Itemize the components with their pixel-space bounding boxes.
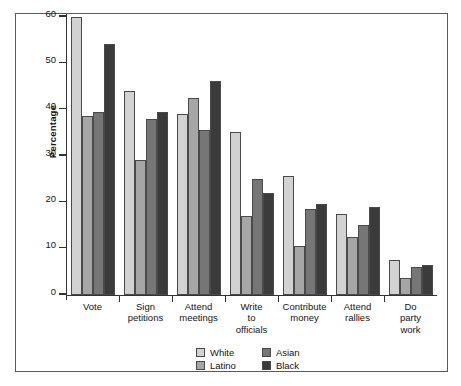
- legend-label: Latino: [210, 360, 236, 371]
- x-axis-category-label: Vote: [83, 301, 102, 313]
- bar-group-bars: [66, 17, 119, 295]
- y-tick: 0: [59, 293, 66, 294]
- y-axis-title: Percentage: [47, 72, 58, 192]
- y-tick-label: 10: [45, 239, 56, 250]
- bar: [177, 114, 188, 295]
- bar: [188, 98, 199, 295]
- y-tick-label: 0: [51, 286, 56, 297]
- bar: [336, 214, 347, 295]
- bar: [347, 237, 358, 295]
- x-axis-category-label: Attend meetings: [179, 301, 218, 324]
- bar: [400, 278, 411, 294]
- bar: [252, 179, 263, 295]
- y-tick-label: 50: [45, 54, 56, 65]
- bar-group: Contribute money: [278, 17, 331, 295]
- bar-group-bars: [172, 17, 225, 295]
- x-tick: [225, 296, 226, 302]
- bar: [369, 207, 380, 295]
- bar: [411, 267, 422, 295]
- legend-swatch-icon: [196, 348, 205, 357]
- bar: [93, 112, 104, 295]
- bar: [358, 225, 369, 295]
- bar: [210, 81, 221, 294]
- chart-legend: WhiteAsianLatinoBlack: [196, 346, 300, 371]
- y-tick-label: 20: [45, 193, 56, 204]
- y-tick-label: 60: [45, 8, 56, 19]
- bar: [263, 193, 274, 295]
- bar-chart-figure: Percentage 0102030405060 VoteSign petiti…: [0, 0, 461, 386]
- legend-item: White: [196, 347, 236, 358]
- legend-swatch-icon: [196, 361, 205, 370]
- y-tick: 50: [59, 62, 66, 63]
- x-axis-category-label: Write to officials: [236, 301, 268, 336]
- x-tick: [384, 296, 385, 302]
- x-tick: [331, 296, 332, 302]
- y-tick-label: 40: [45, 100, 56, 111]
- bar-group-bars: [384, 17, 437, 295]
- bar-group-bars: [119, 17, 172, 295]
- legend-item: Asian: [262, 347, 300, 358]
- legend-label: Black: [276, 360, 299, 371]
- x-axis-category-label: Do party work: [397, 301, 424, 336]
- plot-area: 0102030405060 VoteSign petitionsAttend m…: [66, 18, 443, 296]
- bar: [283, 176, 294, 294]
- bar-group-bars: [278, 17, 331, 295]
- legend-item: Latino: [196, 360, 236, 371]
- bar: [230, 132, 241, 294]
- bar: [82, 116, 93, 294]
- y-tick: 20: [59, 201, 66, 202]
- legend-swatch-icon: [262, 348, 271, 357]
- y-tick: 60: [59, 15, 66, 16]
- x-tick: [119, 296, 120, 302]
- legend-swatch-icon: [262, 361, 271, 370]
- bar: [135, 160, 146, 294]
- bar-group: Vote: [66, 17, 119, 295]
- legend-label: White: [210, 347, 234, 358]
- bar: [316, 204, 327, 294]
- bar: [71, 17, 82, 295]
- bar-group: Attend rallies: [331, 17, 384, 295]
- bar: [241, 216, 252, 295]
- legend-item: Black: [262, 360, 300, 371]
- x-axis-line: [66, 295, 437, 296]
- bar: [124, 91, 135, 295]
- bar: [389, 260, 400, 295]
- bar-group: Attend meetings: [172, 17, 225, 295]
- bar: [422, 265, 433, 295]
- bar-group-bars: [331, 17, 384, 295]
- bar: [305, 209, 316, 295]
- bar-group: Write to officials: [225, 17, 278, 295]
- bar: [146, 119, 157, 295]
- bar: [294, 246, 305, 295]
- bar: [157, 112, 168, 295]
- x-tick: [172, 296, 173, 302]
- x-axis-category-label: Attend rallies: [344, 301, 371, 324]
- chart-frame: Percentage 0102030405060 VoteSign petiti…: [15, 13, 448, 372]
- bar-group: Do party work: [384, 17, 437, 295]
- bar: [199, 130, 210, 294]
- x-axis-category-label: Sign petitions: [128, 301, 163, 324]
- x-tick: [278, 296, 279, 302]
- x-axis-category-label: Contribute money: [283, 301, 327, 324]
- bar: [104, 44, 115, 294]
- y-tick-label: 30: [45, 147, 56, 158]
- y-tick: 40: [59, 108, 66, 109]
- y-tick: 10: [59, 247, 66, 248]
- y-tick: 30: [59, 154, 66, 155]
- bar-group-bars: [225, 17, 278, 295]
- legend-label: Asian: [276, 347, 300, 358]
- bar-group: Sign petitions: [119, 17, 172, 295]
